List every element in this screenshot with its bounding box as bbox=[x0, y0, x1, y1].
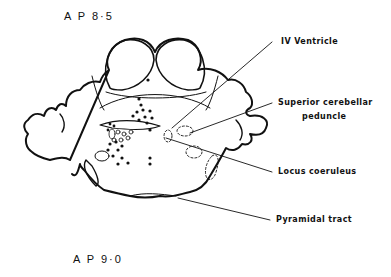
label-peduncle: peduncle bbox=[302, 112, 346, 121]
label-pyramidal-tract: Pyramidal tract bbox=[276, 215, 352, 224]
label-superior-cerebellar: Superior cerebellar bbox=[278, 98, 373, 107]
label-iv-ventricle: IV Ventricle bbox=[281, 37, 338, 46]
label-locus-coeruleus: Locus coeruleus bbox=[278, 167, 357, 176]
section-label-ap-9-0: A P 9·0 bbox=[73, 253, 123, 265]
